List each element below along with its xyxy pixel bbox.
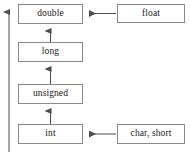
type-promotion-diagram: double float long unsigned int char, sho… xyxy=(0,0,190,153)
node-int-label: int xyxy=(45,129,55,139)
node-unsigned: unsigned xyxy=(18,84,83,104)
node-long-label: long xyxy=(42,47,59,57)
node-long: long xyxy=(18,42,83,62)
node-unsigned-label: unsigned xyxy=(33,89,68,99)
node-char-short-label: char, short xyxy=(131,129,172,139)
node-char-short: char, short xyxy=(117,124,185,144)
node-int: int xyxy=(18,124,83,144)
node-float-label: float xyxy=(142,9,160,19)
node-double-label: double xyxy=(37,9,63,19)
node-double: double xyxy=(18,4,83,24)
node-float: float xyxy=(117,4,185,23)
